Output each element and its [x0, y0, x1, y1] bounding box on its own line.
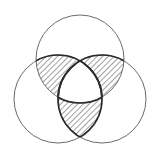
venn-diagram: [0, 0, 157, 157]
